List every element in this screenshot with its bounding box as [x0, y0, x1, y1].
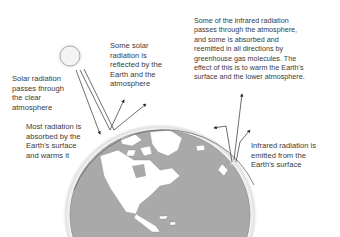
- label-solar-passes: Solar radiation passes through the clear…: [12, 74, 64, 112]
- sun-icon: [56, 42, 84, 70]
- label-solar-reflected: Some solar radiation is reflected by the…: [110, 41, 162, 89]
- greenhouse-effect-diagram: Solar radiation passes through the clear…: [0, 0, 340, 237]
- label-infrared-passes: Some of the infrared radiation passes th…: [194, 16, 305, 82]
- label-infrared-emitted: Infrared radiation is emitted from the E…: [251, 141, 316, 170]
- label-absorbed: Most radiation is absorbed by the Earth'…: [26, 122, 81, 160]
